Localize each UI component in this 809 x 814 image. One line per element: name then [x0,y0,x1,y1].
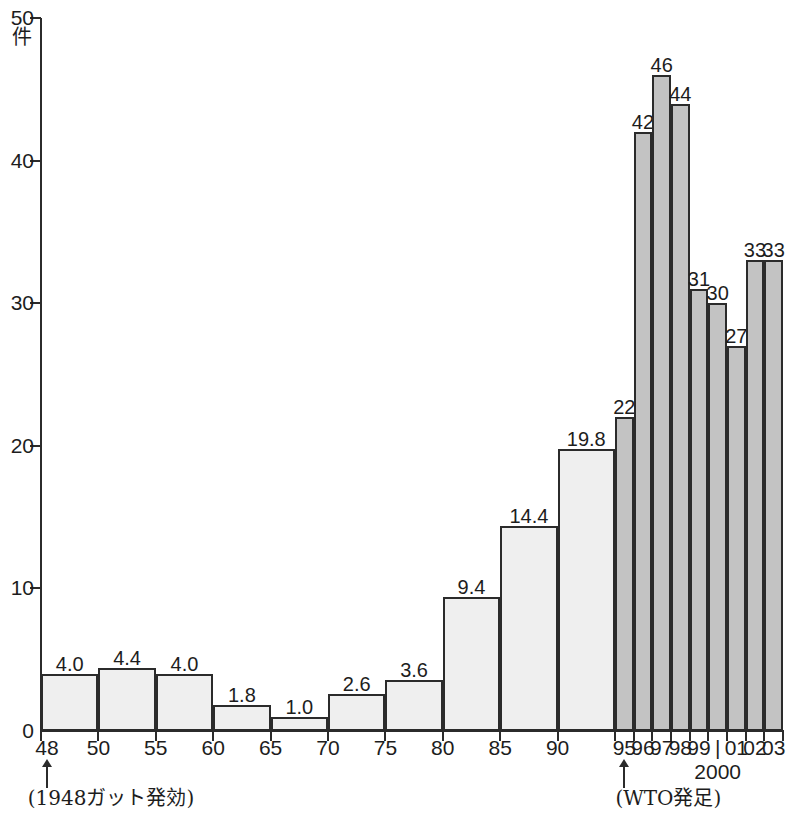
x-axis-tick-label: 75 [374,737,397,759]
bar-value-label: 22 [613,397,635,418]
x-axis-tick-label: 65 [259,737,282,759]
y-axis-tick-label: 20 [0,435,34,456]
annotation-arrow [623,766,625,788]
x-axis-tick-label: 80 [431,737,454,759]
bar-65: 1.0 [271,717,328,731]
y-axis-tick-label: 10 [0,577,34,598]
bar-value-label: 30 [707,283,729,304]
y-axis-unit-label: 件 [12,27,32,47]
bar-value-label: 46 [651,55,673,76]
bar-value-label: 42 [632,112,654,133]
bars-layer: 4.04.44.01.81.02.63.69.414.419.822424644… [41,18,783,731]
bar-90: 19.8 [558,449,615,731]
x-axis-tick-label: 48 [35,737,58,759]
x-axis-tick-label: 90 [546,737,569,759]
x-axis-sublabel: 2000 [694,761,741,783]
bar-value-label: 4.0 [171,654,199,675]
bar-value-label: 1.8 [228,685,256,706]
y-axis-tick-label: 50 [0,7,34,28]
bar-value-label: 4.0 [56,654,84,675]
bar-55: 4.0 [156,674,213,731]
bar-value-label: 33 [763,240,785,261]
bar-value-label: 1.0 [285,697,313,718]
bar-value-label: 27 [725,326,747,347]
bar-03: 33 [764,260,783,731]
x-axis-tick [782,731,784,741]
x-axis-tick-label: 60 [202,737,225,759]
bar-chart: 件 01020304050 4.04.44.01.81.02.63.69.414… [0,0,809,814]
bar-97: 46 [652,75,671,731]
bar-96: 42 [634,132,653,731]
y-axis-tick-label: 30 [0,292,34,313]
bar-50: 4.4 [98,668,155,731]
bar-95: 22 [615,417,634,731]
x-axis-tick [707,731,709,741]
bar-98: 44 [671,104,690,731]
bar-value-label: 3.6 [400,660,428,681]
bar-48: 4.0 [41,674,98,731]
bar-value-label: 9.4 [458,577,486,598]
annotation-label: (WTO発足) [615,787,721,809]
y-axis-tick-label: 0 [0,720,34,741]
x-axis-tick-label: 50 [87,737,110,759]
bar-80: 9.4 [443,597,500,731]
x-axis-tick-label: 70 [316,737,339,759]
bar-85: 14.4 [500,526,557,731]
bar-01: 27 [727,346,746,731]
y-axis-tick-label: 40 [0,150,34,171]
bar-value-label: 4.4 [113,648,141,669]
bar-02: 33 [746,260,765,731]
bar-value-label: 2.6 [343,674,371,695]
bar-75: 3.6 [385,680,442,731]
bar-60: 1.8 [213,705,270,731]
bar-2000: 30 [708,303,727,731]
bar-99: 31 [690,289,709,731]
bar-70: 2.6 [328,694,385,731]
annotation-label: (1948ガット発効) [28,787,195,809]
bar-value-label: 14.4 [509,506,548,527]
x-axis-tick-label: | [715,737,720,759]
bar-value-label: 44 [669,84,691,105]
bar-value-label: 19.8 [567,429,606,450]
annotation-arrow [46,766,48,788]
x-axis-tick-label: 85 [489,737,512,759]
x-axis-tick-label: 55 [144,737,167,759]
